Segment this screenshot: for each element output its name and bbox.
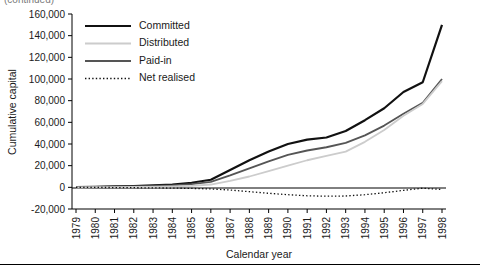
x-tick-label: 1996 [398, 217, 409, 240]
y-tick-label: 100,000 [29, 74, 66, 85]
series-line-paid-in [76, 79, 442, 187]
y-tick-label: 0 [59, 182, 65, 193]
x-axis-title: Calendar year [226, 248, 292, 260]
legend-label-paid-in: Paid-in [139, 54, 172, 66]
figure-bottom-rule [0, 264, 480, 265]
y-tick-label: -20,000 [31, 204, 65, 215]
x-tick-label: 1987 [225, 217, 236, 240]
x-tick-label: 1989 [263, 217, 274, 240]
series-line-committed [76, 25, 442, 187]
x-tick-label: 1998 [437, 217, 448, 240]
x-tick-label: 1988 [244, 217, 255, 240]
cumulative-capital-line-chart: -20,000020,00040,00060,00080,000100,0001… [0, 0, 480, 269]
x-axis-ticks: 1979198019811982198319841985198619871988… [71, 209, 448, 239]
x-tick-label: 1992 [321, 217, 332, 240]
legend-label-committed: Committed [139, 19, 190, 31]
y-tick-label: 80,000 [34, 95, 65, 106]
y-axis-title: Cumulative capital [6, 69, 18, 155]
x-tick-label: 1986 [205, 217, 216, 240]
y-tick-label: 120,000 [29, 52, 66, 63]
x-tick-label: 1979 [71, 217, 82, 240]
y-tick-label: 140,000 [29, 30, 66, 41]
x-tick-label: 1995 [379, 217, 390, 240]
x-tick-label: 1990 [282, 217, 293, 240]
x-tick-label: 1985 [186, 217, 197, 240]
x-tick-label: 1984 [167, 217, 178, 240]
y-tick-label: 60,000 [34, 117, 65, 128]
legend-label-distributed: Distributed [139, 36, 189, 48]
series-line-distributed [76, 81, 442, 187]
x-tick-label: 1993 [340, 217, 351, 240]
x-tick-label: 1991 [302, 217, 313, 240]
chart-legend: CommittedDistributedPaid-inNet realised [85, 19, 195, 84]
x-tick-label: 1981 [109, 217, 120, 240]
y-tick-label: 40,000 [34, 139, 65, 150]
y-tick-label: 20,000 [34, 160, 65, 171]
x-tick-label: 1997 [417, 217, 428, 240]
x-tick-label: 1980 [90, 217, 101, 240]
x-tick-label: 1994 [360, 217, 371, 240]
series-line-net-realised [76, 187, 442, 196]
legend-label-net-realised: Net realised [139, 71, 195, 83]
y-axis-ticks: -20,000020,00040,00060,00080,000100,0001… [29, 9, 72, 215]
data-series-layer [76, 25, 442, 196]
x-tick-label: 1983 [148, 217, 159, 240]
y-tick-label: 160,000 [29, 9, 66, 20]
x-tick-label: 1982 [128, 217, 139, 240]
